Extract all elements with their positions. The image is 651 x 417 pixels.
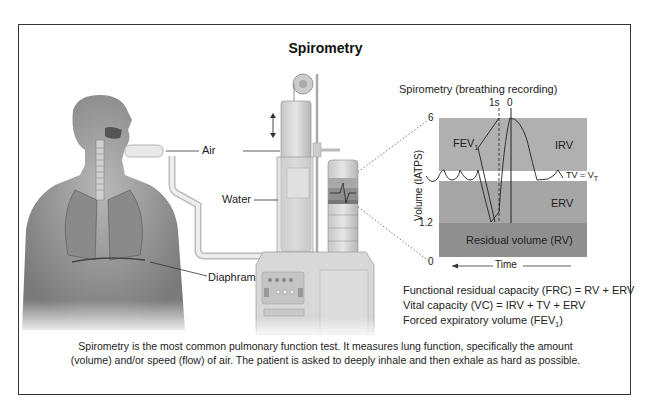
- label-irv: IRV: [555, 139, 573, 151]
- label-air: Air: [202, 144, 215, 156]
- label-tv: TV = VT: [566, 170, 598, 182]
- formula-vc: Vital capacity (VC) = IRV + TV + ERV: [403, 298, 634, 313]
- y-tick-6: 6: [428, 112, 434, 123]
- y-axis-label: Volume (IATPS): [413, 150, 424, 221]
- label-rv: Residual volume (RV): [466, 234, 573, 246]
- label-fev1: FEV1: [453, 137, 478, 151]
- human-figure: [20, 95, 190, 335]
- caption: Spirometry is the most common pulmonary …: [60, 339, 591, 367]
- x-axis-label: Time: [495, 259, 517, 270]
- y-tick-0: 0: [428, 256, 434, 267]
- formulas: Functional residual capacity (FRC) = RV …: [403, 283, 634, 332]
- label-erv: ERV: [551, 197, 573, 209]
- marker-1s: 1s: [489, 97, 500, 108]
- label-diaphragm: Diaphram: [208, 271, 256, 283]
- chart-title: Spirometry (breathing recording): [399, 83, 557, 95]
- formula-frc: Functional residual capacity (FRC) = RV …: [403, 283, 634, 298]
- spirometer-device: [250, 74, 380, 338]
- formula-fev1: Forced expiratory volume (FEV1): [403, 313, 634, 332]
- label-water: Water: [222, 193, 251, 205]
- marker-0: 0: [507, 97, 513, 108]
